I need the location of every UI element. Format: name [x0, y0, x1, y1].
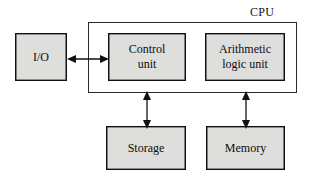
- cpu-block-diagram: CPU I/O Control unit Arithmetic logic un…: [0, 0, 313, 184]
- block-storage: Storage: [106, 126, 186, 170]
- block-memory-label: Memory: [223, 141, 268, 156]
- block-io: I/O: [15, 33, 67, 81]
- block-arithmetic-logic-unit-label: Arithmetic logic unit: [217, 42, 273, 72]
- connector-alu-memory-double-arrow-icon: [237, 90, 255, 130]
- connector-control-unit-storage-double-arrow-icon: [138, 90, 156, 130]
- block-control-unit-label: Control unit: [127, 42, 168, 72]
- block-control-unit: Control unit: [108, 33, 186, 81]
- block-io-label: I/O: [31, 50, 51, 65]
- block-arithmetic-logic-unit: Arithmetic logic unit: [205, 33, 285, 81]
- block-memory: Memory: [206, 126, 285, 170]
- cpu-group-label: CPU: [240, 5, 284, 19]
- connector-io-control-unit-double-arrow-icon: [66, 48, 110, 70]
- block-storage-label: Storage: [126, 141, 167, 156]
